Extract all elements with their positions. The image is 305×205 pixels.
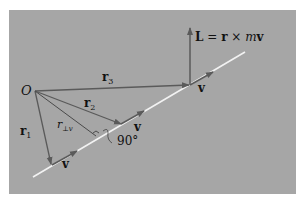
angular-momentum-label: L = r × mv — [195, 31, 264, 43]
r1-vector — [35, 91, 51, 164]
right-angle-label: 90° — [117, 135, 138, 147]
r2-label: r2 — [84, 97, 95, 112]
cross-sign: × — [227, 30, 245, 44]
r2-subscript: 2 — [90, 103, 95, 112]
m-symbol: m — [245, 30, 256, 44]
r1-label: r1 — [20, 125, 31, 140]
origin-label: O — [21, 84, 32, 97]
r1-subscript: 1 — [26, 131, 31, 140]
right-angle-marker — [93, 131, 99, 133]
v1-label: v — [62, 158, 69, 170]
r2-vector — [35, 91, 121, 124]
v3-label: v — [198, 82, 205, 94]
r-perp-subscript: ⊥v — [62, 125, 73, 133]
v2-label: v — [134, 121, 141, 133]
r-perp-label: r⊥v — [57, 119, 73, 133]
r3-label: r3 — [102, 71, 113, 86]
r3-subscript: 3 — [108, 77, 113, 86]
v-symbol: v — [257, 30, 264, 44]
equals-sign: = — [203, 30, 221, 44]
